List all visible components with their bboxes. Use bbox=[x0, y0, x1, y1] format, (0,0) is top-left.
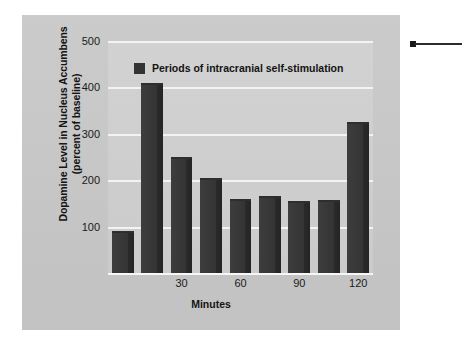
y-axis-tick-label: 300 bbox=[82, 128, 100, 140]
x-axis-tick-label: 90 bbox=[293, 277, 305, 289]
callout-leader-line bbox=[415, 43, 462, 45]
x-axis-baseline bbox=[108, 273, 373, 275]
bar bbox=[112, 231, 134, 273]
bar bbox=[141, 83, 163, 273]
legend-label: Periods of intracranial self-stimulation bbox=[152, 62, 343, 74]
x-axis-tick-label: 30 bbox=[175, 277, 187, 289]
bar-cap bbox=[171, 157, 193, 159]
bar bbox=[288, 201, 310, 273]
bar-cap bbox=[230, 199, 252, 201]
gridline bbox=[108, 41, 373, 43]
bar bbox=[230, 199, 252, 273]
bar-cap bbox=[347, 122, 369, 124]
bar-cap bbox=[288, 201, 310, 203]
bar-cap bbox=[141, 83, 163, 85]
y-axis-tick-label: 200 bbox=[82, 174, 100, 186]
plot-area bbox=[108, 41, 373, 273]
bar bbox=[318, 200, 340, 273]
y-axis-tick-labels: 100200300400500 bbox=[62, 41, 104, 273]
bar-cap bbox=[259, 196, 281, 198]
bar-cap bbox=[200, 178, 222, 180]
x-axis-tick-label: 60 bbox=[234, 277, 246, 289]
bar bbox=[347, 122, 369, 273]
legend-swatch-icon bbox=[134, 63, 145, 74]
y-axis-tick-label: 400 bbox=[82, 81, 100, 93]
chart-figure-panel: Dopamine Level in Nucleus Accumbens (per… bbox=[22, 15, 400, 330]
callout-leader bbox=[410, 41, 452, 48]
bar-cap bbox=[318, 200, 340, 202]
bar bbox=[259, 196, 281, 273]
x-axis-tick-label: 120 bbox=[349, 277, 367, 289]
y-axis-tick-label: 100 bbox=[82, 221, 100, 233]
x-axis-tick-labels: 306090120 bbox=[108, 277, 373, 293]
chart-legend: Periods of intracranial self-stimulation bbox=[134, 62, 343, 74]
bar bbox=[171, 157, 193, 273]
bar-cap bbox=[112, 231, 134, 233]
x-axis-title: Minutes bbox=[22, 298, 400, 310]
y-axis-tick-label: 500 bbox=[82, 35, 100, 47]
bar bbox=[200, 178, 222, 273]
